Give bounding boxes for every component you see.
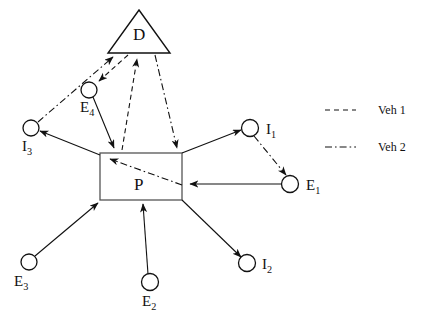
node-label-E3: E3 [14,274,28,292]
node-shape-I1[interactable] [242,120,259,137]
node-label-E1: E1 [306,178,320,196]
node-label-I3: I3 [22,139,32,157]
edge-P-to-I1 [182,130,241,153]
legend-samples [325,110,356,147]
edge-P-to-I3 [40,131,100,155]
legend-label-veh2: Veh 2 [378,141,406,153]
node-shape-E1[interactable] [282,176,299,193]
node-shape-E2[interactable] [142,274,159,291]
node-label-E4: E4 [80,100,94,118]
edge-E3-to-P [35,203,98,256]
diagram-svg [0,0,427,327]
edge-D-to-P [155,55,177,148]
node-label-E2: E2 [142,294,156,312]
edge-E4-to-P [93,97,114,148]
edge-P-to-I2 [182,200,241,257]
node-shape-I3[interactable] [23,120,39,136]
node-label-P: P [134,176,143,193]
node-shapes [21,10,299,291]
diagram-canvas: D P E4 I3 I1 E1 E3 E2 I2 Veh 1 Veh 2 [0,0,427,327]
node-shape-I2[interactable] [239,255,256,272]
node-label-I2: I2 [262,257,272,275]
edge-P-to-D [122,59,137,150]
legend-label-veh1: Veh 1 [378,104,406,116]
node-label-I1: I1 [266,122,276,140]
edge-E2-to-P [143,204,148,274]
edge-I3-to-D [38,57,113,122]
edge-I1-to-E1 [254,136,286,175]
node-shape-E4[interactable] [81,82,97,98]
edge-D-to-E4 [99,55,128,81]
node-shape-E3[interactable] [21,254,37,270]
node-label-D: D [133,26,145,43]
